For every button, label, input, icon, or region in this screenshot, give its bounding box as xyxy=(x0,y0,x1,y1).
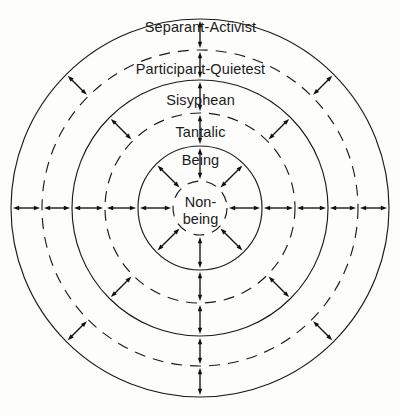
double-arrow-gap-tantalic-sisyphean-315deg xyxy=(269,277,290,298)
arrow-head-inward-icon xyxy=(130,206,136,210)
arrow-head-outward-icon xyxy=(44,206,50,210)
arrow-head-inward-icon xyxy=(198,237,202,243)
double-arrow-gap-sisyphean-participant-270deg xyxy=(198,338,202,364)
arrow-shaft xyxy=(316,324,330,338)
arrow-shaft xyxy=(113,121,129,137)
arrow-shaft xyxy=(271,279,287,295)
arrow-head-outward-icon xyxy=(107,206,113,210)
arrow-head-inward-icon xyxy=(64,206,70,210)
double-arrow-gap-tantalic-sisyphean-45deg xyxy=(269,119,290,140)
arrow-head-outward-icon xyxy=(198,21,202,27)
double-arrow-gap-participant-separant-0deg xyxy=(360,206,387,210)
double-arrow-gap-being-tantalic-180deg xyxy=(107,206,136,210)
arrow-head-outward-icon xyxy=(287,206,293,210)
arrow-head-outward-icon xyxy=(13,206,19,210)
double-arrow-gap-participant-separant-315deg xyxy=(313,321,332,340)
double-arrow-gap-sisyphean-participant-0deg xyxy=(330,206,356,210)
arrow-head-outward-icon xyxy=(198,358,202,364)
arrow-head-inward-icon xyxy=(264,206,270,210)
arrow-head-outward-icon xyxy=(198,389,202,395)
arrow-head-inward-icon xyxy=(229,206,235,210)
double-arrow-gap-nonbeing-being-180deg xyxy=(140,206,171,210)
arrows-group xyxy=(13,21,387,395)
arrow-head-inward-icon xyxy=(297,206,303,210)
arrow-head-outward-icon xyxy=(198,262,202,268)
arrow-head-inward-icon xyxy=(97,206,103,210)
double-arrow-gap-nonbeing-being-45deg xyxy=(221,166,243,188)
double-arrow-gap-tantalic-sisyphean-0deg xyxy=(297,206,326,210)
rings-svg xyxy=(0,0,401,417)
double-arrow-gap-nonbeing-being-90deg xyxy=(198,148,202,179)
double-arrow-gap-participant-separant-135deg xyxy=(68,76,87,95)
double-arrow-gap-participant-separant-225deg xyxy=(68,321,87,340)
arrow-head-inward-icon xyxy=(198,72,202,78)
arrow-head-outward-icon xyxy=(254,206,260,210)
arrow-head-inward-icon xyxy=(360,206,366,210)
arrow-shaft xyxy=(223,231,240,248)
arrow-head-outward-icon xyxy=(198,295,202,301)
double-arrow-gap-being-tantalic-270deg xyxy=(198,272,202,301)
double-arrow-gap-tantalic-sisyphean-180deg xyxy=(74,206,103,210)
arrow-head-inward-icon xyxy=(198,42,202,48)
arrow-shaft xyxy=(316,78,330,92)
double-arrow-gap-participant-separant-90deg xyxy=(198,21,202,48)
arrow-shaft xyxy=(70,324,84,338)
arrow-head-outward-icon xyxy=(350,206,356,210)
concentric-ring-diagram: Separant-Activist Participant-Quietest S… xyxy=(0,0,401,417)
arrow-shaft xyxy=(70,78,84,92)
double-arrow-gap-participant-separant-270deg xyxy=(198,368,202,395)
double-arrow-gap-participant-separant-45deg xyxy=(313,76,332,95)
arrow-head-inward-icon xyxy=(198,272,202,278)
arrow-head-outward-icon xyxy=(320,206,326,210)
arrow-shaft xyxy=(223,168,240,185)
arrow-head-outward-icon xyxy=(198,328,202,334)
arrow-head-outward-icon xyxy=(140,206,146,210)
arrow-head-outward-icon xyxy=(198,148,202,154)
ring-circle-non-being xyxy=(173,181,227,235)
double-arrow-gap-being-tantalic-0deg xyxy=(264,206,293,210)
double-arrow-gap-tantalic-sisyphean-225deg xyxy=(111,277,132,298)
arrow-head-inward-icon xyxy=(198,138,202,144)
double-arrow-gap-sisyphean-participant-180deg xyxy=(44,206,70,210)
arrow-head-inward-icon xyxy=(198,368,202,374)
double-arrow-gap-tantalic-sisyphean-90deg xyxy=(198,82,202,111)
arrow-shaft xyxy=(113,279,129,295)
arrow-head-inward-icon xyxy=(198,305,202,311)
arrow-head-inward-icon xyxy=(198,173,202,179)
arrow-head-outward-icon xyxy=(381,206,387,210)
double-arrow-gap-tantalic-sisyphean-270deg xyxy=(198,305,202,334)
arrow-head-inward-icon xyxy=(34,206,40,210)
double-arrow-gap-participant-separant-180deg xyxy=(13,206,40,210)
arrow-head-outward-icon xyxy=(198,52,202,58)
arrow-head-inward-icon xyxy=(198,338,202,344)
double-arrow-gap-sisyphean-participant-90deg xyxy=(198,52,202,78)
double-arrow-gap-nonbeing-being-270deg xyxy=(198,237,202,268)
double-arrow-gap-nonbeing-being-0deg xyxy=(229,206,260,210)
double-arrow-gap-nonbeing-being-135deg xyxy=(158,166,180,188)
arrow-head-outward-icon xyxy=(198,82,202,88)
arrow-shaft xyxy=(160,231,177,248)
double-arrow-gap-nonbeing-being-315deg xyxy=(221,229,243,251)
arrow-shaft xyxy=(160,168,177,185)
arrow-head-inward-icon xyxy=(330,206,336,210)
double-arrow-gap-being-tantalic-90deg xyxy=(198,115,202,144)
arrow-shaft xyxy=(271,121,287,137)
double-arrow-gap-nonbeing-being-225deg xyxy=(158,229,180,251)
arrow-head-outward-icon xyxy=(74,206,80,210)
arrow-head-outward-icon xyxy=(198,115,202,121)
arrow-head-inward-icon xyxy=(165,206,171,210)
double-arrow-gap-tantalic-sisyphean-135deg xyxy=(111,119,132,140)
arrow-head-inward-icon xyxy=(198,105,202,111)
